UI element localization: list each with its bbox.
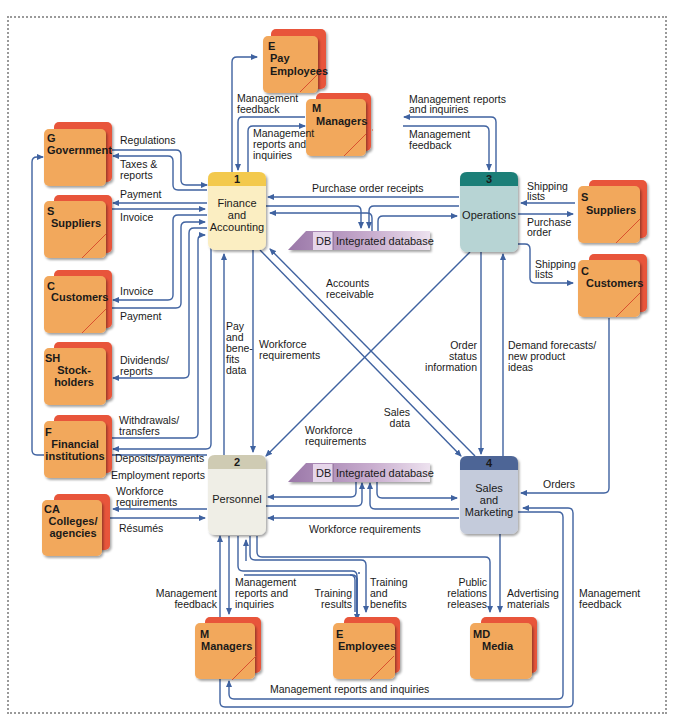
flow-label: Workforce requirements bbox=[309, 523, 421, 535]
data-flow-diagram: 1 Finance and Accounting 2 Personnel 3 O… bbox=[0, 0, 676, 727]
entity-id: S bbox=[581, 191, 588, 203]
entity-id: C bbox=[581, 265, 589, 277]
entity-name: Suppliers bbox=[51, 217, 101, 229]
flow-label: Orders bbox=[543, 478, 575, 490]
datastore-id: DB bbox=[316, 467, 331, 479]
flow-label: transfers bbox=[119, 425, 160, 437]
flow-label: order bbox=[527, 226, 552, 238]
datastore-id: DB bbox=[316, 235, 331, 247]
process-number: 3 bbox=[486, 173, 492, 185]
entity-name: institutions bbox=[45, 450, 104, 462]
entity-name: Media bbox=[482, 640, 514, 652]
flow-label: lists bbox=[535, 268, 553, 280]
process-number: 1 bbox=[234, 173, 240, 185]
flow-label: feedback bbox=[579, 598, 622, 610]
entity-id: S bbox=[47, 205, 54, 217]
flow-label: Payment bbox=[120, 188, 162, 200]
flow-label: results bbox=[321, 598, 352, 610]
flow-label: Regulations bbox=[120, 134, 175, 146]
entity-id: G bbox=[47, 132, 56, 144]
flow-label: requirements bbox=[116, 496, 177, 508]
entity-name: Suppliers bbox=[586, 204, 636, 216]
entity-id: M bbox=[312, 102, 321, 114]
flow-label: ideas bbox=[508, 361, 533, 373]
flow-label: Management reports and inquiries bbox=[270, 683, 429, 695]
flow-label: reports bbox=[120, 169, 153, 181]
entity-name: Colleges/ bbox=[49, 515, 98, 527]
flow-label: lists bbox=[527, 190, 545, 202]
flow-label: feedback bbox=[409, 139, 452, 151]
flow-label: benefits bbox=[370, 598, 407, 610]
process-number: 2 bbox=[234, 456, 240, 468]
process-label: Accounting bbox=[210, 221, 264, 233]
flow-label: Invoice bbox=[120, 211, 153, 223]
entity-name: Customers bbox=[51, 291, 108, 303]
entity-id: E bbox=[336, 628, 343, 640]
flow-label: Payment bbox=[120, 310, 162, 322]
process-label: Sales bbox=[475, 482, 503, 494]
entity-name: Managers bbox=[201, 640, 252, 652]
flow-label: inquiries bbox=[253, 149, 292, 161]
flow-label: information bbox=[425, 361, 477, 373]
entity-id: SH bbox=[45, 352, 60, 364]
flow-label: requirements bbox=[305, 435, 366, 447]
flow-label: Employment reports bbox=[111, 469, 205, 481]
process-label: and bbox=[480, 494, 498, 506]
entity-name: Financial bbox=[51, 438, 99, 450]
entity-name: Government bbox=[47, 144, 112, 156]
entity-id: CA bbox=[44, 503, 60, 515]
flow-label: feedback bbox=[174, 598, 217, 610]
flow-label: inquiries bbox=[235, 598, 274, 610]
flow-label: releases bbox=[447, 598, 487, 610]
flow-label: Purchase order receipts bbox=[312, 182, 423, 194]
process-label: Marketing bbox=[465, 506, 513, 518]
entity-name: holders bbox=[54, 376, 94, 388]
entity-name: Stock- bbox=[57, 364, 91, 376]
datastore-name: Integrated database bbox=[336, 467, 434, 479]
process-label: Personnel bbox=[212, 493, 262, 505]
entity-name: Managers bbox=[316, 115, 367, 127]
flow-label: Invoice bbox=[120, 285, 153, 297]
entity-id: F bbox=[45, 426, 52, 438]
flow-label: Deposits/payments bbox=[115, 452, 204, 464]
entity-id: M bbox=[200, 628, 209, 640]
flow-label: data bbox=[390, 417, 411, 429]
entity-name: Employees bbox=[270, 65, 328, 77]
flow-labels: Management feedback Management reports a… bbox=[111, 92, 640, 695]
process-label: Finance bbox=[217, 197, 256, 209]
flow-label: feedback bbox=[237, 103, 280, 115]
flow-label: requirements bbox=[259, 349, 320, 361]
process-number: 4 bbox=[486, 457, 493, 469]
flow-label: materials bbox=[507, 598, 550, 610]
process-label: and bbox=[228, 209, 246, 221]
entity-name: Pay bbox=[270, 52, 290, 64]
flow-label: reports bbox=[120, 365, 153, 377]
entity-name: agencies bbox=[49, 527, 96, 539]
entity-id: MD bbox=[473, 628, 490, 640]
flow-label: data bbox=[226, 364, 247, 376]
flow-label: Résumés bbox=[119, 522, 163, 534]
process-label: Operations bbox=[462, 209, 516, 221]
datastore-name: Integrated database bbox=[336, 235, 434, 247]
flow-label: receivable bbox=[326, 288, 374, 300]
entity-name: Employees bbox=[338, 640, 396, 652]
entity-name: Customers bbox=[586, 277, 643, 289]
flow-label: and inquiries bbox=[409, 103, 469, 115]
entity-id: E bbox=[268, 40, 275, 52]
